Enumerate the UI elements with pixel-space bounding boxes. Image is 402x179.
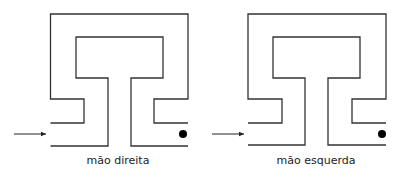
maze-diagram <box>0 0 402 179</box>
maze-left-hand <box>212 14 386 145</box>
dot-icon <box>378 130 386 138</box>
maze-wall-outer-left <box>248 14 386 123</box>
maze-label-right-hand: mão direita <box>48 154 188 167</box>
maze-wall-inner <box>51 37 189 146</box>
dot-icon <box>179 130 187 138</box>
maze-wall-outer-left <box>51 14 189 123</box>
maze-right-hand <box>14 14 188 146</box>
maze-wall-inner <box>248 37 386 145</box>
maze-label-left-hand: mão esquerda <box>246 154 386 167</box>
